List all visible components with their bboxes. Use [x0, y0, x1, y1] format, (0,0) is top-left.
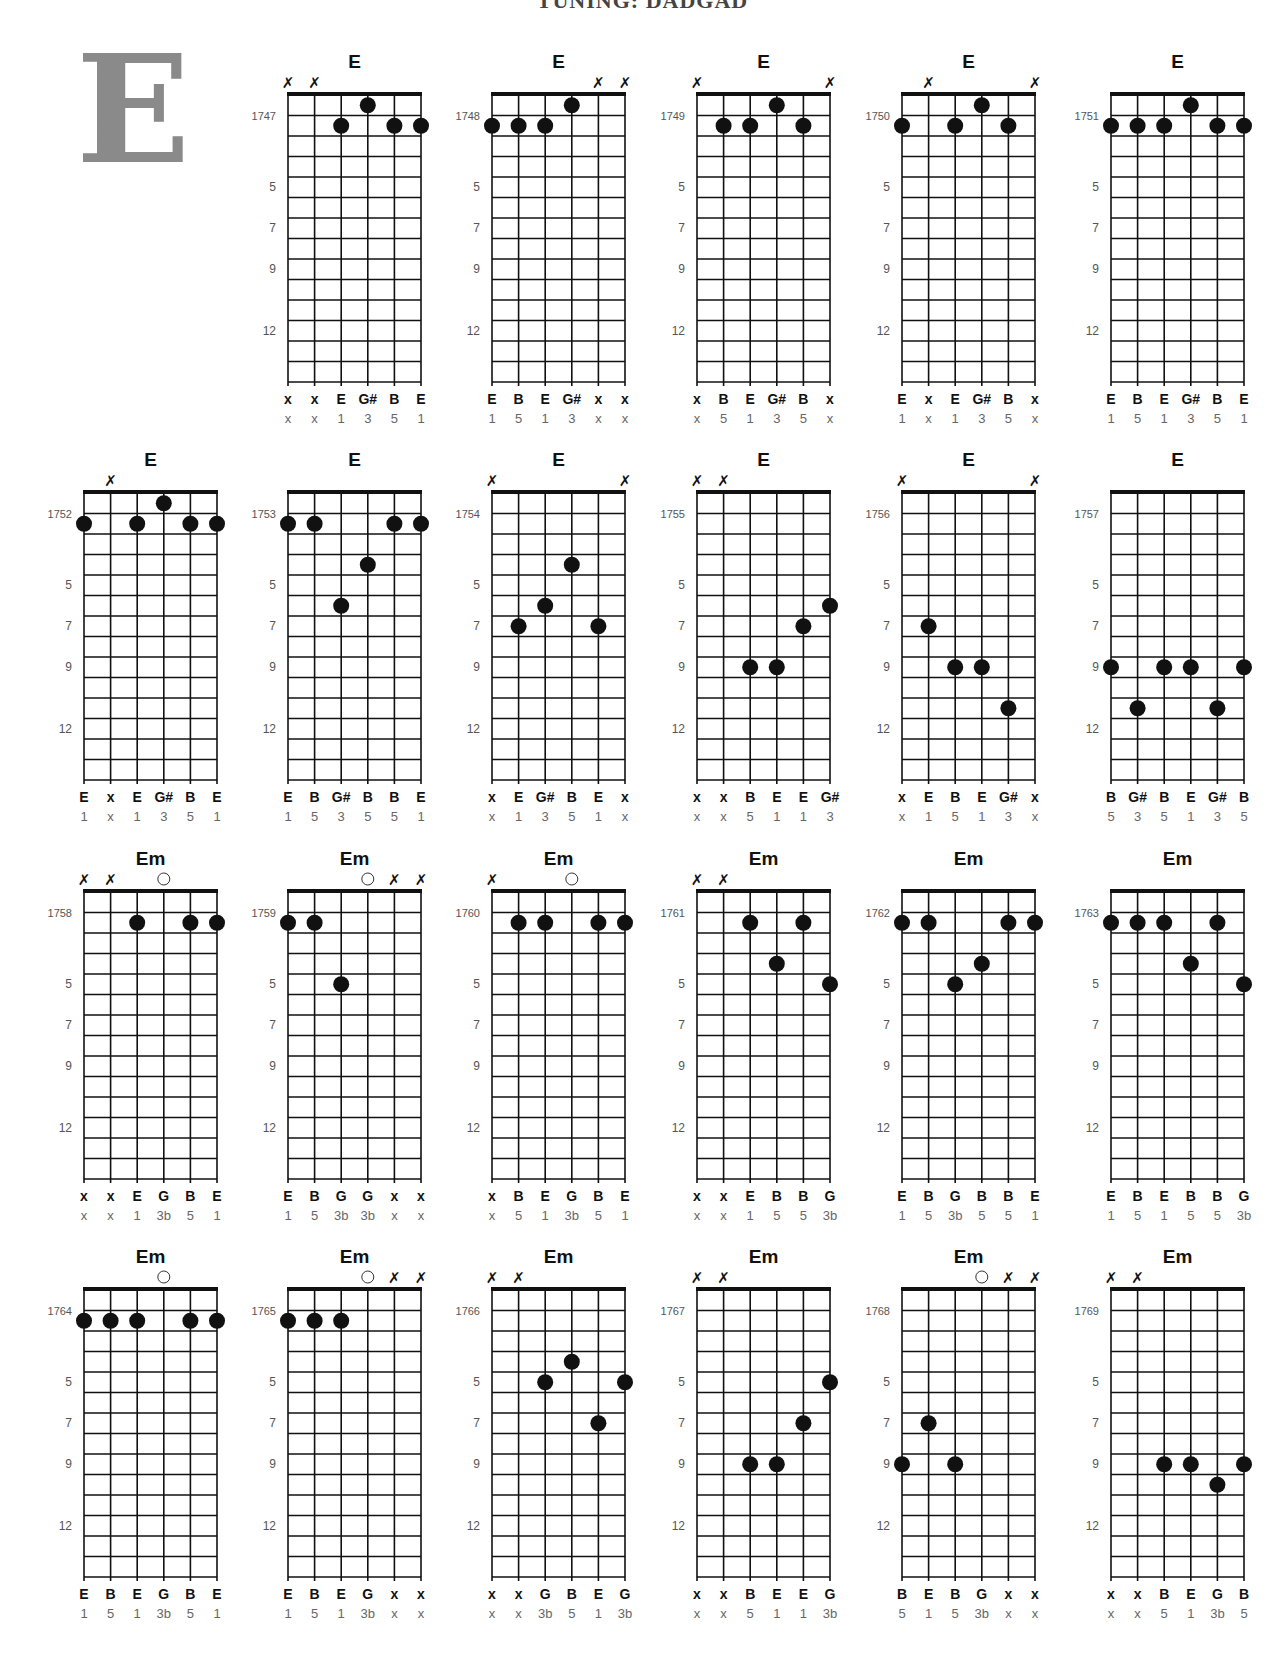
fret-number: 12	[877, 1519, 891, 1533]
note-label: B	[310, 1188, 320, 1204]
interval-label: 5	[747, 809, 754, 824]
finger-dot-icon	[76, 516, 92, 532]
note-label: x	[311, 391, 319, 407]
note-label: G#	[999, 789, 1018, 805]
open-string-icon	[566, 873, 578, 885]
interval-label: 1	[1187, 1606, 1194, 1621]
nut	[696, 490, 831, 494]
note-label: E	[746, 1188, 755, 1204]
interval-label: 3b	[565, 1208, 579, 1223]
nut	[696, 1287, 831, 1291]
chord-number: 1758	[48, 907, 72, 919]
chord-name: E	[962, 449, 975, 470]
muted-string-icon: ✗	[512, 1269, 525, 1287]
interval-label: x	[391, 1606, 398, 1621]
nut	[1110, 889, 1245, 893]
chord-name: E	[552, 51, 565, 72]
muted-string-icon: ✗	[388, 1269, 401, 1287]
interval-label: 3b	[157, 1208, 171, 1223]
finger-dot-icon	[333, 1313, 349, 1329]
note-label: B	[310, 789, 320, 805]
interval-label: 1	[773, 809, 780, 824]
chord-diagram: E175757912B5G#3B5E1G#3B5	[1075, 449, 1252, 824]
finger-dot-icon	[537, 1374, 553, 1390]
finger-dot-icon	[947, 118, 963, 134]
muted-string-icon: ✗	[691, 871, 704, 889]
finger-dot-icon	[947, 976, 963, 992]
interval-label: 3b	[1237, 1208, 1251, 1223]
muted-string-icon: ✗	[388, 871, 401, 889]
open-string-icon	[362, 1271, 374, 1283]
chord-number: 1750	[866, 110, 890, 122]
finger-dot-icon	[537, 598, 553, 614]
interval-label: x	[720, 1208, 727, 1223]
finger-dot-icon	[894, 915, 910, 931]
finger-dot-icon	[795, 118, 811, 134]
nut	[491, 92, 626, 96]
interval-label: 5	[1240, 1606, 1247, 1621]
note-label: B	[950, 1586, 960, 1602]
interval-label: 5	[800, 1208, 807, 1223]
note-label: E	[416, 789, 425, 805]
interval-label: 1	[338, 411, 345, 426]
muted-string-icon: ✗	[717, 472, 730, 490]
finger-dot-icon	[209, 915, 225, 931]
finger-dot-icon	[182, 516, 198, 532]
fret-number: 7	[883, 619, 890, 633]
finger-dot-icon	[1000, 118, 1016, 134]
interval-label: 1	[978, 809, 985, 824]
note-label: B	[185, 789, 195, 805]
chord-diagram: E175657912✗xxE1B5E1G#3✗xx	[866, 449, 1042, 824]
interval-label: 5	[1005, 1208, 1012, 1223]
interval-label: 5	[978, 1208, 985, 1223]
chord-name: Em	[340, 848, 370, 869]
finger-dot-icon	[307, 516, 323, 532]
interval-label: 5	[952, 809, 959, 824]
interval-label: 5	[107, 1606, 114, 1621]
note-label: x	[693, 789, 701, 805]
note-label: x	[391, 1188, 399, 1204]
chord-name: Em	[544, 1246, 574, 1267]
note-label: B	[389, 391, 399, 407]
interval-label: 3	[568, 411, 575, 426]
interval-label: 3b	[157, 1606, 171, 1621]
note-label: E	[1186, 789, 1195, 805]
finger-dot-icon	[564, 557, 580, 573]
finger-dot-icon	[1183, 97, 1199, 113]
note-label: E	[1106, 391, 1115, 407]
fret-number: 12	[59, 722, 73, 736]
finger-dot-icon	[1000, 915, 1016, 931]
note-label: G	[825, 1188, 836, 1204]
fret-number: 9	[1092, 1059, 1099, 1073]
muted-string-icon: ✗	[486, 472, 499, 490]
chord-diagram: Em176457912E1B5E1G3bB5E1	[48, 1246, 225, 1621]
chord-number: 1751	[1075, 110, 1099, 122]
finger-dot-icon	[103, 1313, 119, 1329]
chord-diagram: Em176557912E1B5E1G3b✗xx✗xx	[252, 1246, 428, 1621]
finger-dot-icon	[1156, 1456, 1172, 1472]
interval-label: 5	[800, 411, 807, 426]
fret-number: 5	[1092, 180, 1099, 194]
note-label: G	[1212, 1586, 1223, 1602]
finger-dot-icon	[182, 915, 198, 931]
note-label: B	[745, 789, 755, 805]
chord-name: Em	[954, 848, 984, 869]
note-label: x	[488, 789, 496, 805]
note-label: x	[621, 391, 629, 407]
note-label: B	[950, 789, 960, 805]
chord-diagram: Em176057912✗xxB5E1G3bB5E1	[456, 848, 633, 1223]
note-label: G#	[821, 789, 840, 805]
interval-label: 5	[311, 1208, 318, 1223]
interval-label: 1	[952, 411, 959, 426]
fret-number: 12	[1086, 722, 1100, 736]
fret-number: 12	[1086, 1121, 1100, 1135]
chord-name: E	[348, 449, 361, 470]
chord-diagram: E174857912E1B5E1G#3✗xx✗xx	[456, 51, 632, 426]
interval-label: 3	[978, 411, 985, 426]
note-label: E	[1030, 1188, 1039, 1204]
muted-string-icon: ✗	[78, 871, 91, 889]
interval-label: x	[391, 1208, 398, 1223]
note-label: B	[1133, 391, 1143, 407]
open-string-icon	[362, 873, 374, 885]
note-label: B	[1133, 1188, 1143, 1204]
